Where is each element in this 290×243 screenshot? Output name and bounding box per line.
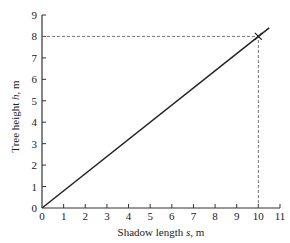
x-tick-label: 3	[104, 210, 110, 222]
line-chart: 012345678910110123456789Shadow length s,…	[0, 0, 290, 243]
y-tick-label: 7	[32, 52, 38, 64]
x-tick-label: 7	[191, 210, 197, 222]
y-tick-label: 4	[32, 116, 38, 128]
y-tick-label: 0	[32, 202, 38, 214]
chart-figure: 012345678910110123456789Shadow length s,…	[0, 0, 290, 243]
x-tick-label: 5	[147, 210, 153, 222]
data-line	[42, 28, 269, 208]
x-tick-label: 1	[61, 210, 67, 222]
y-tick-label: 3	[32, 138, 38, 150]
x-axis-label: Shadow length s, m	[118, 226, 205, 238]
y-tick-label: 6	[32, 73, 38, 85]
x-tick-label: 10	[253, 210, 265, 222]
y-tick-label: 5	[32, 95, 38, 107]
x-tick-label: 0	[39, 210, 45, 222]
y-tick-label: 9	[32, 9, 38, 21]
x-tick-label: 8	[212, 210, 218, 222]
y-tick-label: 1	[32, 181, 38, 193]
x-tick-label: 2	[83, 210, 89, 222]
y-tick-label: 2	[32, 159, 38, 171]
x-tick-label: 9	[234, 210, 240, 222]
x-tick-label: 11	[275, 210, 286, 222]
x-tick-label: 6	[169, 210, 175, 222]
y-axis-label: Tree height h, m	[9, 80, 21, 153]
x-tick-label: 4	[126, 210, 132, 222]
y-tick-label: 8	[32, 30, 38, 42]
